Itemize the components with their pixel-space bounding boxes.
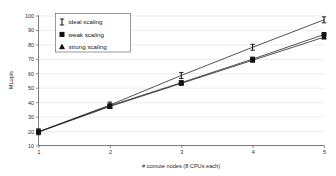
y-tick-label-40: 40 [28, 100, 34, 106]
x-tick-label-5: 5 [323, 149, 326, 155]
x-tick-label-3: 3 [180, 149, 183, 155]
y-axis-title: MLup/s [8, 71, 14, 90]
legend-label-0: ideal scaling [69, 18, 104, 25]
square-marker-icon [60, 32, 64, 36]
chart-legend: ideal scalingweak scalingstrong scaling [56, 14, 131, 53]
x-axis-title: # comute nodes (8 CPUs each) [142, 163, 220, 169]
x-tick-label-1: 1 [38, 149, 41, 155]
y-tick-label-60: 60 [28, 71, 34, 77]
y-tick-label-30: 30 [28, 114, 34, 120]
x-tick-label-4: 4 [252, 149, 255, 155]
y-tick-label-10: 10 [28, 143, 34, 149]
y-tick-label-70: 70 [28, 56, 34, 62]
y-tick-label-100: 100 [25, 13, 34, 19]
chart-container: 102030405060708090100 12345 MLup/s # com… [0, 0, 336, 176]
y-tick-label-90: 90 [28, 27, 34, 33]
y-tick-label-20: 20 [28, 129, 34, 135]
scaling-line-chart: 102030405060708090100 12345 MLup/s # com… [0, 0, 336, 176]
y-tick-label-50: 50 [28, 85, 34, 91]
x-tick-label-2: 2 [109, 149, 112, 155]
legend-label-2: strong scaling [69, 43, 108, 50]
legend-label-1: weak scaling [68, 31, 105, 38]
y-tick-label-80: 80 [28, 42, 34, 48]
